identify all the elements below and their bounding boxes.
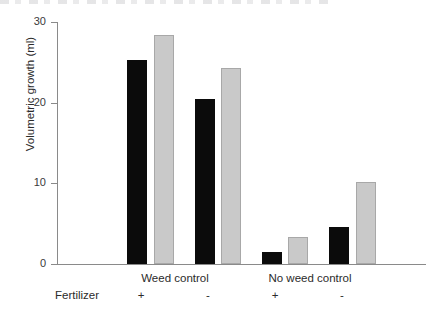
plot-area [57,22,432,264]
row-label-fertilizer: Fertilizer [55,289,99,301]
bar-weed-control-minus-grey [221,68,241,264]
group-label-no-weed-control: No weed control [268,272,351,284]
fertilizer-plus-label-3: + [265,289,285,301]
y-tick-label: 20 [8,96,46,108]
bar-no-weed-control-plus-black [262,252,282,264]
bar-weed-control-plus-black [127,60,147,264]
fertilizer-minus-label-4: - [332,289,352,301]
bar-no-weed-control-plus-grey [288,237,308,264]
fertilizer-minus-label-2: - [198,289,218,301]
x-axis-line [57,264,426,265]
bar-no-weed-control-minus-grey [356,182,376,264]
y-tick-label: 30 [8,15,46,27]
y-tick-label: 0 [8,257,46,269]
fertilizer-plus-label-1: + [131,289,151,301]
group-label-weed-control: Weed control [141,272,209,284]
bar-chart-figure: Volumetric growth (ml) 0102030 Weed cont… [0,0,432,319]
bar-no-weed-control-minus-black [329,227,349,264]
bar-weed-control-plus-grey [154,35,174,264]
bar-weed-control-minus-black [195,99,215,264]
y-tick-mark [51,264,57,265]
y-tick-label: 10 [8,176,46,188]
clipped-caption-sliver [0,0,330,4]
